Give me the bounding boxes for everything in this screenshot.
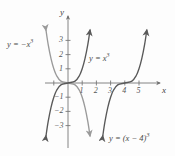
curve-label-cube-base: y = x <box>89 53 107 63</box>
x-tick-label-3: 3 <box>108 87 112 95</box>
curve-label-shifted-cube-exp: 3 <box>146 132 149 138</box>
x-tick-label-1: 1 <box>80 87 84 95</box>
y-tick-label-2: 2 <box>59 51 63 59</box>
y-tick-label-neg1: −1 <box>54 93 63 101</box>
x-tick-label-4: 4 <box>122 87 126 95</box>
curve-label-neg-cube-base: y = −x <box>7 39 30 49</box>
cubic-graphs-figure: 1 2 3 4 5 1 2 3 −1 −2 −3 y x y = −x3 y =… <box>0 0 175 156</box>
curve-label-shifted-cube-base: y = (x − 4) <box>109 133 146 143</box>
curve-label-neg-cube: y = −x3 <box>7 38 33 48</box>
y-tick-label-3: 3 <box>59 36 63 44</box>
y-axis-label: y <box>60 8 64 17</box>
x-axis-label: x <box>162 86 166 95</box>
curve-label-neg-cube-exp: 3 <box>30 38 33 44</box>
curve-label-cube: y = x3 <box>89 52 110 62</box>
curve-label-cube-exp: 3 <box>107 52 110 58</box>
x-tick-label-5: 5 <box>136 87 140 95</box>
curve-label-shifted-cube: y = (x − 4)3 <box>109 132 149 142</box>
y-tick-label-neg2: −2 <box>54 107 63 115</box>
y-tick-label-1: 1 <box>59 65 63 73</box>
x-tick-label-2: 2 <box>94 87 98 95</box>
y-tick-label-neg3: −3 <box>54 122 63 130</box>
